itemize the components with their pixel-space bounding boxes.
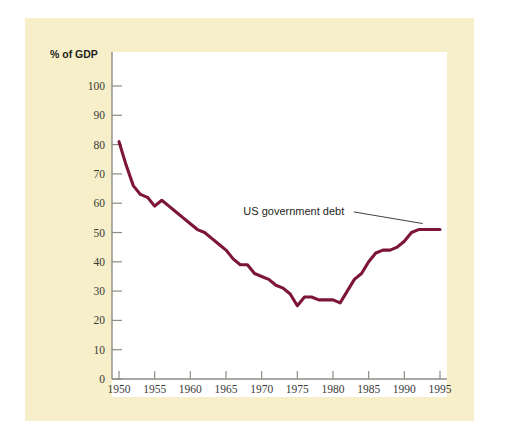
x-tick-label: 1960 (179, 383, 202, 395)
line-chart: % of GDP 0102030405060708090100 19501955… (0, 0, 507, 440)
y-tick-label: 20 (94, 314, 106, 326)
x-axis-ticks: 1950195519601965197019751980198519901995 (108, 371, 452, 395)
x-tick-label: 1950 (108, 383, 131, 395)
x-tick-label: 1985 (357, 383, 380, 395)
x-tick-label: 1975 (286, 383, 309, 395)
y-tick-label: 0 (99, 373, 105, 385)
x-tick-label: 1955 (143, 383, 166, 395)
y-tick-label: 60 (94, 197, 106, 209)
chart-annotations: US government debt (243, 205, 422, 224)
y-tick-label: 100 (88, 80, 106, 92)
y-tick-label: 90 (94, 109, 106, 121)
series-line-us-government-debt (119, 142, 440, 306)
y-tick-label: 50 (94, 227, 106, 239)
annotation-label: US government debt (243, 205, 344, 217)
y-axis-title: % of GDP (50, 48, 98, 60)
y-tick-label: 70 (94, 168, 106, 180)
y-tick-label: 10 (94, 344, 106, 356)
x-tick-label: 1980 (322, 383, 345, 395)
x-tick-label: 1990 (393, 383, 416, 395)
x-tick-label: 1995 (429, 383, 452, 395)
annotation-leader-line (354, 212, 423, 224)
y-tick-label: 30 (94, 285, 106, 297)
x-tick-label: 1965 (215, 383, 238, 395)
y-tick-label: 40 (94, 256, 106, 268)
y-axis-ticks: 0102030405060708090100 (88, 80, 122, 385)
x-tick-label: 1970 (250, 383, 273, 395)
y-tick-label: 80 (94, 139, 106, 151)
figure-canvas: % of GDP 0102030405060708090100 19501955… (0, 0, 507, 440)
